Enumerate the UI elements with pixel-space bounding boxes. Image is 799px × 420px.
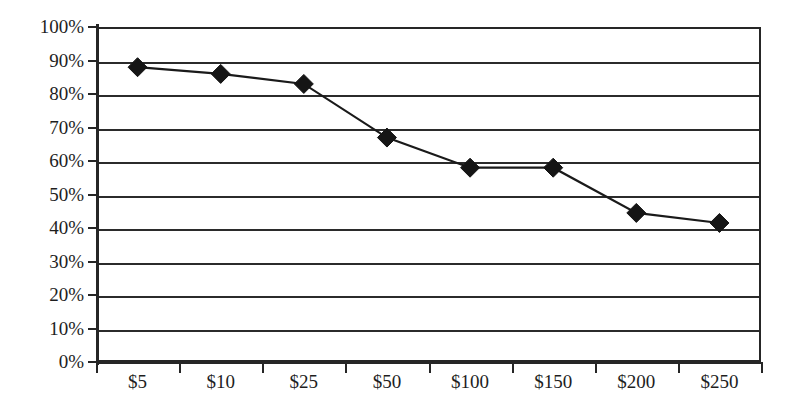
gridline bbox=[98, 296, 759, 298]
y-axis-tick bbox=[88, 160, 97, 162]
gridline bbox=[98, 229, 759, 231]
y-axis-tick bbox=[88, 261, 97, 263]
y-axis-tick-label: 60% bbox=[4, 151, 84, 170]
y-axis-tick bbox=[88, 227, 97, 229]
y-axis-tick bbox=[88, 60, 97, 62]
y-axis-tick-label: 0% bbox=[4, 352, 84, 371]
gridline bbox=[98, 62, 759, 64]
y-axis-tick bbox=[88, 194, 97, 196]
y-axis-tick bbox=[88, 127, 97, 129]
y-axis-tick-label: 40% bbox=[4, 218, 84, 237]
y-axis-tick bbox=[88, 26, 97, 28]
y-axis-tick-label: 50% bbox=[4, 185, 84, 204]
y-axis-tick bbox=[88, 93, 97, 95]
gridline bbox=[98, 162, 759, 164]
y-axis-tick-label: 10% bbox=[4, 319, 84, 338]
chart-container: 0%10%20%30%40%50%60%70%80%90%100% $5$10$… bbox=[0, 0, 799, 420]
gridline bbox=[98, 196, 759, 198]
y-axis-tick-label: 90% bbox=[4, 51, 84, 70]
y-axis-tick bbox=[88, 294, 97, 296]
plot-area bbox=[96, 27, 761, 362]
y-axis-tick-label: 20% bbox=[4, 285, 84, 304]
gridline bbox=[98, 129, 759, 131]
y-axis-tick-label: 100% bbox=[4, 17, 84, 36]
gridline bbox=[98, 95, 759, 97]
y-axis-tick-label: 30% bbox=[4, 252, 84, 271]
y-axis-tick-label: 70% bbox=[4, 118, 84, 137]
x-axis-tick-label: $250 bbox=[669, 371, 769, 393]
y-axis-tick-label: 80% bbox=[4, 84, 84, 103]
gridline bbox=[98, 330, 759, 332]
y-axis-tick bbox=[88, 328, 97, 330]
gridline bbox=[98, 263, 759, 265]
